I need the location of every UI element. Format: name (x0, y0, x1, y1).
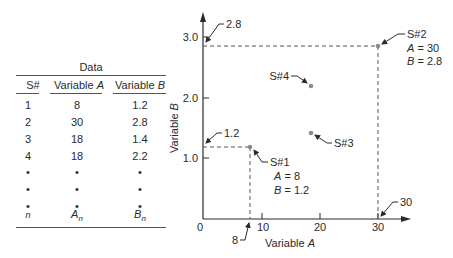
s2-b-value: B = 2.8 (407, 55, 442, 67)
s1-b-val: = 1.2 (281, 184, 309, 196)
s1-b-var: B (274, 184, 281, 196)
y-axis-label-prefix: Variable (168, 110, 180, 153)
s3-label: S#3 (334, 137, 354, 149)
s2-a-value: A = 30 (406, 42, 439, 54)
y-1-2-arrow-icon (206, 133, 222, 143)
s1-a-val: = 8 (281, 170, 300, 182)
y-tick-label-2: 2.0 (183, 92, 198, 104)
y-tick-label-3: 3.0 (183, 31, 198, 43)
y-axis-label-var: B (168, 103, 180, 110)
data-point-s2 (376, 44, 381, 49)
x-tick-label-10: 10 (257, 221, 269, 233)
origin-label: 0 (197, 221, 203, 233)
s2-b-val: = 2.8 (414, 55, 442, 67)
s2-label: S#2 (407, 28, 427, 40)
s3-leader-arrow-icon (315, 135, 332, 143)
y-axis-label: Variable B (168, 103, 180, 153)
x-axis-label-prefix: Variable (265, 237, 308, 249)
s1-b-value: B = 1.2 (274, 184, 309, 196)
s1-a-var: A (273, 170, 281, 182)
s1-leader-arrow-icon (254, 150, 268, 162)
y-axis-arrow-icon (200, 12, 206, 22)
s2-b-var: B (407, 55, 414, 67)
s2-a-var: A (406, 42, 414, 54)
x-30-label: 30 (400, 196, 412, 208)
s2-a-val: = 30 (414, 42, 439, 54)
data-point-s1 (248, 145, 253, 150)
s1-a-value: A = 8 (273, 170, 300, 182)
y-2-8-label: 2.8 (226, 18, 241, 30)
x-tick-label-30: 30 (372, 221, 384, 233)
x-axis-label-var: A (307, 237, 315, 249)
scatter-chart: 1.0 2.0 3.0 0 10 20 30 Variable A Variab… (0, 0, 453, 258)
y-2-8-arrow-icon (206, 24, 224, 42)
x-8-label: 8 (232, 234, 238, 246)
s2-leader-arrow-icon (382, 34, 405, 44)
s4-label: S#4 (269, 70, 289, 82)
data-point-s4 (309, 84, 314, 89)
y-1-2-label: 1.2 (224, 127, 239, 139)
data-point-s3 (309, 131, 314, 136)
s4-leader-arrow-icon (291, 76, 307, 83)
x-tick-label-20: 20 (314, 221, 326, 233)
x-axis-arrow-icon (401, 216, 411, 222)
y-tick-label-1: 1.0 (183, 152, 198, 164)
x-axis-label: Variable A (265, 237, 315, 249)
s1-label: S#1 (270, 156, 290, 168)
x-8-arrow-icon (240, 223, 249, 240)
x-30-arrow-icon (381, 202, 398, 216)
